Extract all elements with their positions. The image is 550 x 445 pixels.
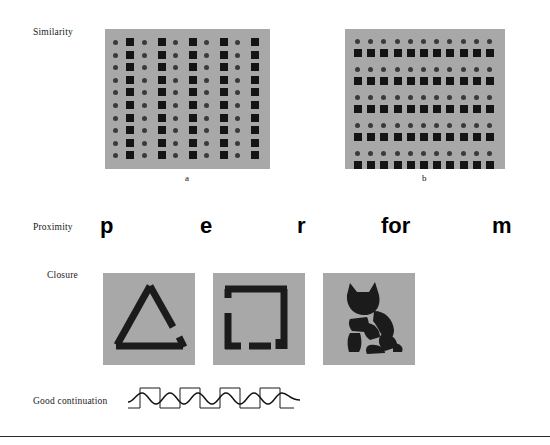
similarity-a-square [126, 76, 134, 84]
similarity-b-square [446, 161, 454, 169]
similarity-b-circle [421, 95, 426, 100]
similarity-a-square [158, 88, 166, 96]
fragmented-cat-icon [323, 273, 415, 365]
similarity-b-square [446, 49, 454, 57]
similarity-b-square [380, 105, 388, 113]
similarity-a-square [189, 88, 197, 96]
similarity-a-circle [235, 141, 240, 146]
similarity-b-circle [368, 39, 373, 44]
similarity-a-circle [173, 90, 178, 95]
similarity-a-square [126, 151, 134, 159]
broken-square-icon [213, 273, 305, 365]
row-label-similarity: Similarity [33, 27, 73, 37]
closure-figure-triangle [103, 273, 195, 365]
similarity-a-square [251, 114, 259, 122]
similarity-a-square [158, 76, 166, 84]
similarity-b-square [354, 105, 362, 113]
similarity-a-square [189, 139, 197, 147]
similarity-a-square [158, 114, 166, 122]
similarity-b-square [433, 161, 441, 169]
similarity-b-square [446, 77, 454, 85]
similarity-a-circle [235, 40, 240, 45]
similarity-b-circle [355, 67, 360, 72]
similarity-a-circle [204, 103, 209, 108]
similarity-b-circle [487, 67, 492, 72]
similarity-b-square [407, 133, 415, 141]
similarity-a-square [158, 51, 166, 59]
similarity-a-circle [142, 153, 147, 158]
similarity-b-circle [434, 123, 439, 128]
similarity-b-square [473, 161, 481, 169]
similarity-a-square [158, 139, 166, 147]
similarity-b-circle [487, 151, 492, 156]
similarity-a-circle [113, 141, 118, 146]
closure-figure-square [213, 273, 305, 365]
similarity-a-circle [204, 128, 209, 133]
similarity-a-square [158, 151, 166, 159]
similarity-a-circle [142, 78, 147, 83]
proximity-letter-4: m [492, 212, 512, 240]
similarity-a-square [126, 38, 134, 46]
similarity-a-circle [204, 141, 209, 146]
similarity-b-circle [421, 123, 426, 128]
similarity-b-square [420, 49, 428, 57]
similarity-a-square [251, 51, 259, 59]
similarity-b-circle [421, 151, 426, 156]
good-continuation-waves [128, 378, 303, 422]
similarity-b-square [420, 133, 428, 141]
similarity-b-square [394, 105, 402, 113]
proximity-letter-3: for [381, 212, 410, 240]
similarity-a-square [189, 114, 197, 122]
bottom-divider [0, 436, 550, 437]
wave-overlay-icon [128, 378, 303, 422]
similarity-b-square [354, 133, 362, 141]
similarity-b-circle [381, 151, 386, 156]
similarity-a-circle [235, 103, 240, 108]
similarity-b-square [460, 49, 468, 57]
similarity-a-square [220, 63, 228, 71]
similarity-b-circle [408, 67, 413, 72]
similarity-a-circle [142, 90, 147, 95]
similarity-b-circle [381, 39, 386, 44]
similarity-b-square [407, 77, 415, 85]
similarity-a-circle [235, 153, 240, 158]
similarity-a-circle [142, 128, 147, 133]
similarity-b-circle [408, 95, 413, 100]
similarity-a-square [251, 139, 259, 147]
similarity-b-circle [408, 123, 413, 128]
similarity-b-square [473, 105, 481, 113]
closure-figure-cat [323, 273, 415, 365]
similarity-a-circle [142, 116, 147, 121]
similarity-b-circle [474, 151, 479, 156]
similarity-b-circle [461, 123, 466, 128]
similarity-b-square [354, 49, 362, 57]
similarity-b-square [486, 105, 494, 113]
similarity-b-square [367, 133, 375, 141]
similarity-b-circle [355, 39, 360, 44]
similarity-b-square [367, 105, 375, 113]
similarity-b-square [486, 161, 494, 169]
similarity-a-square [158, 63, 166, 71]
similarity-a-square [126, 88, 134, 96]
similarity-b-square [380, 49, 388, 57]
similarity-b-square [394, 77, 402, 85]
similarity-a-circle [113, 116, 118, 121]
similarity-b-square [420, 77, 428, 85]
similarity-b-square [433, 49, 441, 57]
similarity-a-square [220, 88, 228, 96]
proximity-letter-1: e [200, 212, 212, 240]
similarity-b-square [354, 161, 362, 169]
similarity-b-circle [368, 67, 373, 72]
similarity-b-circle [447, 123, 452, 128]
similarity-a-square [126, 114, 134, 122]
similarity-b-circle [434, 39, 439, 44]
similarity-b-square [460, 161, 468, 169]
similarity-b-square [486, 133, 494, 141]
similarity-b-square [394, 161, 402, 169]
similarity-b-circle [461, 151, 466, 156]
similarity-b-circle [447, 151, 452, 156]
similarity-a-circle [204, 78, 209, 83]
similarity-b-circle [474, 67, 479, 72]
similarity-b-circle [434, 95, 439, 100]
similarity-b-circle [355, 151, 360, 156]
